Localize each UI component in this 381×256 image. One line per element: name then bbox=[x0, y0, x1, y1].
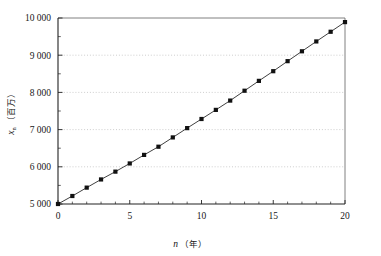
series-marker bbox=[271, 69, 275, 73]
series-marker bbox=[142, 153, 146, 157]
series-marker bbox=[85, 186, 89, 190]
series-marker bbox=[228, 98, 232, 102]
series-marker bbox=[99, 177, 103, 181]
chart-svg: 05101520 5 0006 0007 0008 0009 00010 000… bbox=[0, 0, 381, 256]
x-tick-label: 5 bbox=[127, 211, 132, 221]
series-marker bbox=[156, 145, 160, 149]
series-marker bbox=[257, 79, 261, 83]
x-tick-label: 20 bbox=[340, 211, 350, 221]
y-tick-label: 5 000 bbox=[30, 199, 52, 209]
x-tick-label: 10 bbox=[197, 211, 207, 221]
series-marker bbox=[199, 117, 203, 121]
series-marker bbox=[314, 39, 318, 43]
y-tick-label: 8 000 bbox=[30, 88, 52, 98]
series-marker bbox=[56, 202, 60, 206]
series-marker bbox=[343, 20, 347, 24]
chart-figure: 05101520 5 0006 0007 0008 0009 00010 000… bbox=[0, 0, 381, 256]
series-marker bbox=[185, 126, 189, 130]
y-tick-label: 6 000 bbox=[30, 162, 52, 172]
series-marker bbox=[300, 49, 304, 53]
series-marker bbox=[128, 161, 132, 165]
y-axis-title-unit: （百万） bbox=[6, 89, 16, 125]
series-marker bbox=[242, 89, 246, 93]
x-tick-label: 0 bbox=[56, 211, 61, 221]
x-tick-label: 15 bbox=[269, 211, 279, 221]
x-axis-title-unit: （年） bbox=[180, 239, 207, 249]
y-tick-label: 10 000 bbox=[25, 13, 51, 23]
series-marker bbox=[214, 108, 218, 112]
series-marker bbox=[286, 59, 290, 63]
series-marker bbox=[70, 194, 74, 198]
series-marker bbox=[329, 30, 333, 34]
y-tick-label: 7 000 bbox=[30, 125, 52, 135]
series-marker bbox=[113, 170, 117, 174]
series-marker bbox=[171, 135, 175, 139]
x-axis-title-variable: n bbox=[173, 239, 178, 249]
y-tick-label: 9 000 bbox=[30, 51, 52, 61]
